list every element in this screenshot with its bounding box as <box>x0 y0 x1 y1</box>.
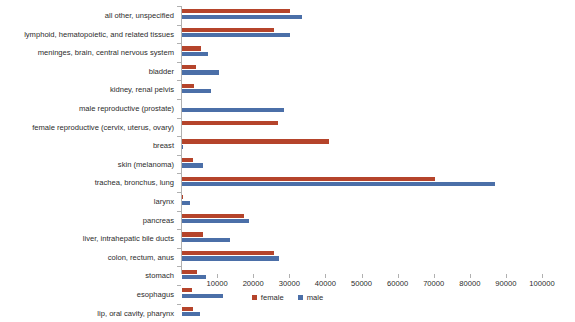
x-axis-tick <box>217 274 218 278</box>
x-axis-tick-label: 40000 <box>315 279 336 288</box>
legend-label-female: female <box>261 293 284 302</box>
bar-female <box>182 177 435 181</box>
bar-female <box>182 214 244 218</box>
bar-row: all other, unspecified <box>181 6 542 25</box>
x-axis-tick-label: 60000 <box>387 279 408 288</box>
bar-male <box>182 89 211 93</box>
x-axis-tick <box>289 274 290 278</box>
bar-female <box>182 65 196 69</box>
legend-item-male: male <box>298 293 323 302</box>
y-axis-tick <box>177 136 181 137</box>
category-label: all other, unspecified <box>105 7 174 26</box>
category-label: pancreas <box>143 212 174 231</box>
bar-male <box>182 312 200 316</box>
bar-male <box>182 163 203 167</box>
x-axis-tick-label: 30000 <box>279 279 300 288</box>
category-label: kidney, renal pelvis <box>110 81 174 100</box>
y-axis-tick <box>177 6 181 7</box>
y-axis-tick <box>177 43 181 44</box>
category-label: meninges, brain, central nervous system <box>38 44 174 63</box>
bar-male <box>182 256 279 260</box>
bar-row: liver, intrahepatic bile ducts <box>181 229 542 248</box>
bar-male <box>182 238 230 242</box>
legend-label-male: male <box>307 293 323 302</box>
x-axis-tick <box>542 274 543 278</box>
category-label: skin (melanoma) <box>118 156 174 175</box>
legend-swatch-female <box>252 295 257 300</box>
x-axis-tick-label: 90000 <box>495 279 516 288</box>
category-label: male reproductive (prostate) <box>79 100 174 119</box>
x-axis-tick-label: 20000 <box>243 279 264 288</box>
bar-female <box>182 28 274 32</box>
y-axis-tick <box>177 25 181 26</box>
category-label: lip, oral cavity, pharynx <box>97 305 174 322</box>
bar-row: breast <box>181 136 542 155</box>
x-axis-tick <box>253 274 254 278</box>
plot-area: all other, unspecifiedlymphoid, hematopo… <box>181 6 542 274</box>
bar-row: lymphoid, hematopoietic, and related tis… <box>181 25 542 44</box>
chart-legend: female male <box>0 293 575 302</box>
bar-row: bladder <box>181 62 542 81</box>
y-axis-tick <box>177 304 181 305</box>
bar-female <box>182 251 274 255</box>
bar-female <box>182 46 201 50</box>
category-label: liver, intrahepatic bile ducts <box>83 230 174 249</box>
x-axis-tick-label: 100000 <box>529 279 554 288</box>
y-axis-tick <box>177 99 181 100</box>
x-axis-tick <box>325 274 326 278</box>
bar-female <box>182 158 193 162</box>
category-label: trachea, bronchus, lung <box>95 174 174 193</box>
bar-male <box>182 182 495 186</box>
y-axis-tick <box>177 118 181 119</box>
bar-row: female reproductive (cervix, uterus, ova… <box>181 118 542 137</box>
bar-row: pancreas <box>181 211 542 230</box>
category-label: colon, rectum, anus <box>108 249 174 268</box>
y-axis-tick <box>177 80 181 81</box>
bar-row: larynx <box>181 192 542 211</box>
bar-row: lip, oral cavity, pharynx <box>181 304 542 322</box>
bar-female <box>182 307 193 311</box>
bar-male <box>182 145 183 149</box>
bar-male <box>182 52 208 56</box>
legend-swatch-male <box>298 295 303 300</box>
bar-female <box>182 139 329 143</box>
category-label: larynx <box>154 193 174 212</box>
x-axis-tick <box>362 274 363 278</box>
category-label: female reproductive (cervix, uterus, ova… <box>32 119 174 138</box>
bar-male <box>182 275 206 279</box>
y-axis-tick <box>177 285 181 286</box>
bar-row: skin (melanoma) <box>181 155 542 174</box>
category-label: bladder <box>149 63 174 82</box>
bar-row: meninges, brain, central nervous system <box>181 43 542 62</box>
y-axis-tick <box>177 248 181 249</box>
bar-female <box>182 121 278 125</box>
bar-female <box>182 84 194 88</box>
bar-row: colon, rectum, anus <box>181 248 542 267</box>
x-axis-tick-label: 80000 <box>459 279 480 288</box>
bar-male <box>182 15 302 19</box>
bar-female <box>182 9 290 13</box>
bar-male <box>182 70 219 74</box>
y-axis-tick <box>177 62 181 63</box>
x-axis-tick <box>434 274 435 278</box>
y-axis-tick <box>177 229 181 230</box>
bar-row: trachea, bronchus, lung <box>181 173 542 192</box>
category-label: breast <box>153 137 174 156</box>
legend-item-female: female <box>252 293 284 302</box>
y-axis-tick <box>177 155 181 156</box>
x-axis-tick-label: 50000 <box>351 279 372 288</box>
category-label: stomach <box>145 267 174 286</box>
x-axis: 1000020000300004000050000600007000080000… <box>181 274 542 275</box>
x-axis-tick-label: 70000 <box>423 279 444 288</box>
x-axis-tick-label: 10000 <box>207 279 228 288</box>
bar-male <box>182 201 190 205</box>
x-axis-tick <box>506 274 507 278</box>
category-label: lymphoid, hematopoietic, and related tis… <box>24 26 174 45</box>
x-axis-tick <box>470 274 471 278</box>
y-axis-tick <box>177 266 181 267</box>
y-axis-tick <box>177 192 181 193</box>
bar-female <box>182 195 183 199</box>
bar-male <box>182 108 284 112</box>
bar-male <box>182 219 249 223</box>
